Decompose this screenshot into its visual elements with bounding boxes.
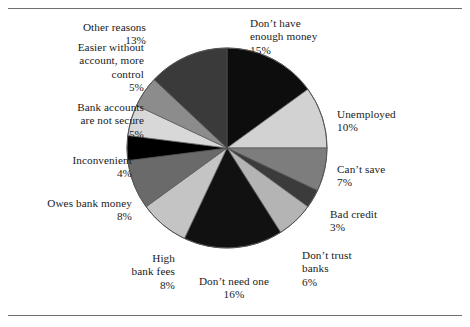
top-divider-rule bbox=[8, 8, 462, 9]
bottom-divider-rule bbox=[8, 315, 462, 316]
label-cant-save: Can’t save 7% bbox=[337, 163, 457, 190]
pie-chart-figure: Other reasons 13% Don’t have enough mone… bbox=[0, 0, 470, 327]
pie-svg bbox=[126, 47, 328, 249]
label-dont-have-enough-money: Don’t have enough money 15% bbox=[250, 17, 400, 57]
pie-slices bbox=[127, 48, 327, 248]
pie-chart-graphic bbox=[126, 47, 328, 249]
label-easier-without-account: Easier without account, more control 5% bbox=[12, 41, 144, 95]
label-owes-bank-money: Owes bank money 8% bbox=[6, 197, 132, 224]
label-bank-accounts-not-secure: Bank accounts are not secure 5% bbox=[12, 101, 144, 141]
label-inconvenient: Inconvenient 4% bbox=[12, 154, 132, 181]
label-dont-trust-banks: Don’t trust banks 6% bbox=[302, 249, 412, 289]
label-dont-need-one: Don’t need one 16% bbox=[179, 275, 289, 302]
label-unemployed: Unemployed 10% bbox=[337, 108, 462, 135]
label-bad-credit: Bad credit 3% bbox=[330, 208, 450, 235]
label-high-bank-fees: High bank fees 8% bbox=[85, 252, 175, 292]
